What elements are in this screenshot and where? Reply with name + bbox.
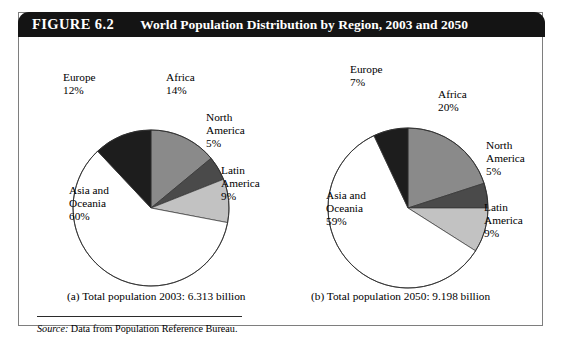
- label-b-latin-america: LatinAmerica9%: [484, 201, 523, 241]
- figure-header: FIGURE 6.2 World Population Distribution…: [18, 12, 545, 37]
- caption-chart-a: (a) Total population 2003: 6.313 billion: [67, 290, 245, 302]
- label-a-latin-america: LatinAmerica9%: [221, 164, 260, 204]
- source-divider: [37, 316, 242, 317]
- label-a-north-america: NorthAmerica5%: [206, 111, 245, 151]
- chart-body: Europe12% Africa14% NorthAmerica5% Latin…: [19, 38, 542, 326]
- label-b-africa: Africa20%: [438, 88, 467, 114]
- label-b-north-america: NorthAmerica5%: [486, 139, 525, 179]
- figure-panel: FIGURE 6.2 World Population Distribution…: [18, 12, 543, 326]
- label-a-africa: Africa14%: [166, 71, 195, 97]
- source-text: Data from Population Reference Bureau.: [68, 323, 237, 334]
- figure-number: FIGURE 6.2: [32, 16, 114, 33]
- figure-title: World Population Distribution by Region,…: [140, 17, 468, 33]
- pie-chart-2050: [308, 77, 508, 292]
- label-b-asia: Asia andOceania59%: [326, 189, 366, 229]
- label-b-europe: Europe7%: [350, 63, 383, 89]
- label-a-europe: Europe12%: [63, 71, 96, 97]
- label-a-asia: Asia andOceania60%: [69, 184, 109, 224]
- source-label: Source:: [37, 323, 68, 334]
- source-note: Source: Data from Population Reference B…: [37, 323, 237, 334]
- caption-chart-b: (b) Total population 2050: 9.198 billion: [311, 290, 490, 302]
